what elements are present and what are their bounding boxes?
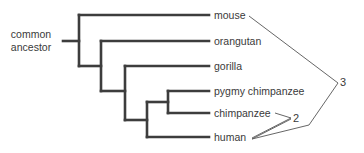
taxon-label-human: human bbox=[214, 131, 246, 143]
taxon-label-chimpanzee: chimpanzee bbox=[214, 107, 271, 119]
tree-branches bbox=[0, 0, 364, 153]
taxon-label-gorilla: gorilla bbox=[214, 60, 242, 72]
annotation-label-2: 2 bbox=[293, 112, 299, 124]
annotation-label-3: 3 bbox=[340, 76, 346, 88]
taxon-label-pygmy-chimpanzee: pygmy chimpanzee bbox=[214, 85, 304, 97]
branch-lines bbox=[63, 15, 209, 137]
taxon-label-orangutan: orangutan bbox=[214, 35, 261, 47]
root-label: common ancestor bbox=[2, 28, 60, 54]
root-label-line2: ancestor bbox=[2, 41, 60, 54]
taxon-label-mouse: mouse bbox=[214, 9, 246, 21]
bracket-2-human bbox=[252, 119, 291, 139]
phylogenetic-tree-diagram: common ancestor mouse orangutan gorilla … bbox=[0, 0, 364, 153]
root-label-line1: common bbox=[2, 28, 60, 41]
